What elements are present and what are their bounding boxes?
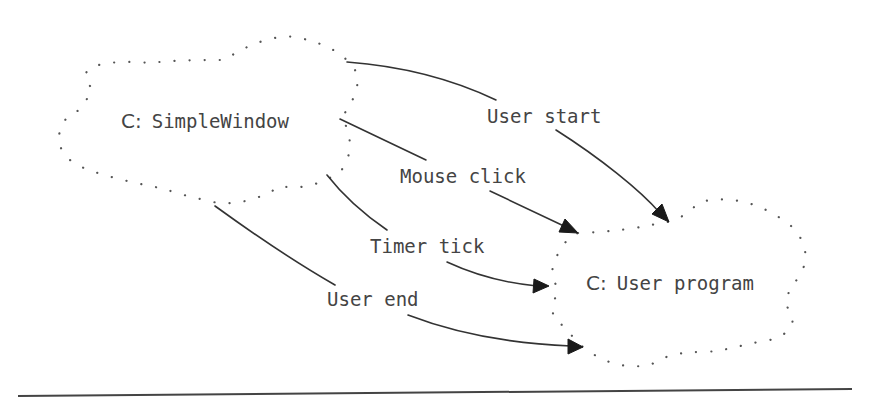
node-name: SimpleWindow <box>152 110 290 132</box>
edge-user-end: User end <box>215 206 583 354</box>
node-simple-window: C: SimpleWindow <box>59 37 357 204</box>
edge-line <box>490 191 566 227</box>
node-name: User program <box>617 272 754 294</box>
node-user-program: C: User program <box>552 199 805 366</box>
node-prefix: C: <box>121 109 142 133</box>
bottom-rule-divider <box>18 389 852 396</box>
arrowhead-icon <box>533 279 549 293</box>
edge-line <box>327 175 387 230</box>
edge-line <box>340 119 426 160</box>
edge-timer-tick: Timer tick <box>327 175 549 293</box>
node-prefix: C: <box>586 271 607 295</box>
edge-user-start: User start <box>347 62 669 222</box>
edge-mouse-click: Mouse click <box>340 119 578 233</box>
arrowhead-icon <box>559 219 578 233</box>
edge-label: User start <box>487 105 601 127</box>
node-label-simple-window: C: SimpleWindow <box>121 109 290 133</box>
edge-line <box>347 62 496 100</box>
diagram-canvas: C: SimpleWindow C: User program User sta… <box>0 0 872 406</box>
arrowhead-icon <box>568 339 583 354</box>
edge-label: User end <box>327 288 419 310</box>
edge-label: Mouse click <box>400 165 526 187</box>
edge-line <box>215 206 335 285</box>
node-label-user-program: C: User program <box>586 271 754 295</box>
edge-line <box>447 262 537 286</box>
edge-label: Timer tick <box>370 235 485 257</box>
edge-line <box>556 130 660 213</box>
edge-line <box>408 315 571 346</box>
